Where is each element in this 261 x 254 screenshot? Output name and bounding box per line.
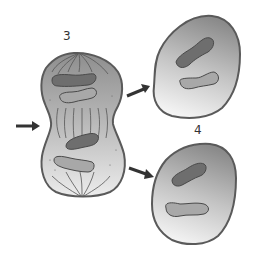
diagram-canvas [0, 0, 261, 254]
upper-daughter-membrane [154, 16, 240, 118]
upper-daughter-cell [154, 16, 240, 118]
dividing-cell [41, 53, 124, 197]
upper-daughter-arrow [127, 84, 150, 96]
stage-label-3: 3 [63, 30, 71, 42]
lower-daughter-cell [152, 144, 236, 244]
lower-daughter-chromosome-light [166, 203, 209, 217]
lower-daughter-arrow [129, 168, 154, 179]
chromosome-dark-top [52, 74, 96, 87]
cell-division-diagram: 3 4 [0, 0, 261, 254]
lower-daughter-membrane [152, 144, 236, 244]
stage-label-4: 4 [194, 124, 202, 136]
cleavage-furrow-arrow [16, 121, 40, 131]
